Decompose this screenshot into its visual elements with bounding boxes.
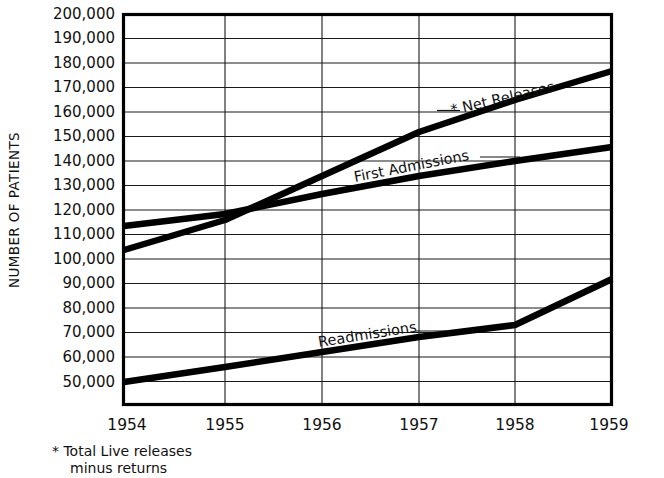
x-tick-label: 1955: [205, 416, 244, 434]
y-tick-label: 130,000: [53, 176, 115, 194]
y-tick-label: 190,000: [53, 29, 115, 47]
y-tick-label: 170,000: [53, 78, 115, 96]
y-axis-title: NUMBER OF PATIENTS: [6, 132, 22, 288]
x-tick-label: 1959: [589, 416, 628, 434]
x-tick-label: 1958: [495, 416, 534, 434]
y-tick-label: 50,000: [63, 373, 116, 391]
footnote-line-1: * Total Live releases: [52, 443, 192, 459]
y-tick-label: 140,000: [53, 152, 115, 170]
y-tick-label: 80,000: [63, 299, 116, 317]
y-tick-label: 60,000: [63, 348, 116, 366]
y-tick-label: 100,000: [53, 250, 115, 268]
y-tick-label: 90,000: [63, 274, 116, 292]
footnote-line-2: minus returns: [70, 460, 167, 476]
line-chart: NUMBER OF PATIENTS 200,000 190,000 180,0…: [0, 0, 664, 478]
y-tick-label: 120,000: [53, 201, 115, 219]
chart-container: NUMBER OF PATIENTS 200,000 190,000 180,0…: [0, 0, 664, 478]
y-tick-label: 180,000: [53, 54, 115, 72]
y-tick-label: 70,000: [63, 323, 116, 341]
x-tick-label: 1956: [302, 416, 341, 434]
y-tick-label: 150,000: [53, 127, 115, 145]
y-tick-label: 160,000: [53, 103, 115, 121]
x-tick-label: 1954: [107, 416, 146, 434]
y-tick-label: 200,000: [53, 5, 115, 23]
y-tick-label: 110,000: [53, 225, 115, 243]
x-tick-label: 1957: [399, 416, 438, 434]
